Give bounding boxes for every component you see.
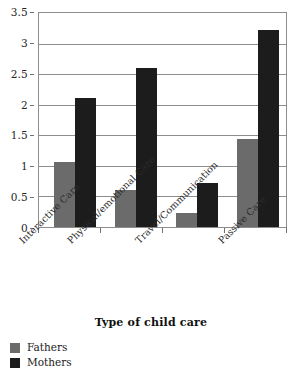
legend-item-mothers: Mothers (10, 355, 72, 370)
y-tick-label: 0.5 (11, 191, 28, 203)
y-tick-mark (30, 197, 34, 198)
y-tick-label: 1.5 (11, 129, 28, 141)
legend-item-fathers: Fathers (10, 340, 72, 355)
legend: Fathers Mothers (10, 340, 72, 370)
bar-mothers-travel-communication (197, 183, 218, 227)
y-tick-label: 2 (21, 99, 28, 111)
y-axis: 3.5 3 2.5 2 1.5 1 0.5 0 (0, 12, 34, 228)
y-tick-mark (30, 105, 34, 106)
legend-swatch-fathers-icon (10, 343, 20, 353)
y-tick-mark (30, 74, 34, 75)
bars-layer (39, 13, 286, 227)
y-tick-label: 3 (21, 37, 28, 49)
y-tick-mark (30, 12, 34, 13)
bar-fathers-travel-communication (176, 213, 197, 227)
x-axis-category-labels: Interactive Care Physical/emotional Care… (0, 228, 302, 314)
y-tick-label: 3.5 (11, 6, 28, 18)
y-tick-label: 1 (21, 160, 28, 172)
x-axis-title: Type of child care (0, 316, 302, 329)
bar-chart: 3.5 3 2.5 2 1.5 1 0.5 0 (0, 0, 302, 377)
y-tick-mark (30, 135, 34, 136)
legend-label-mothers: Mothers (27, 357, 72, 368)
y-tick-mark (30, 166, 34, 167)
bar-mothers-physical-emotional-care (136, 68, 157, 227)
legend-swatch-mothers-icon (10, 358, 20, 368)
bar-mothers-interactive-care (75, 98, 96, 227)
y-tick-mark (30, 43, 34, 44)
y-tick-label: 2.5 (11, 68, 28, 80)
legend-label-fathers: Fathers (27, 342, 67, 353)
